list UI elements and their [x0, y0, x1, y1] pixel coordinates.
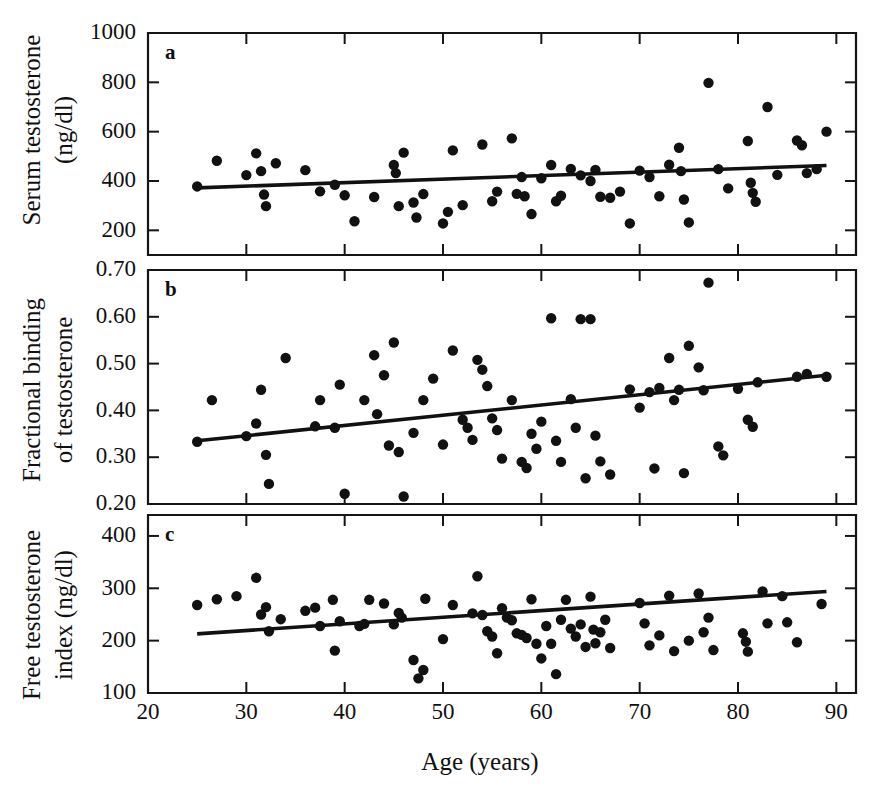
y-tick-label-c-0: 100: [102, 679, 137, 704]
data-point: [231, 591, 241, 601]
data-point: [625, 384, 635, 394]
data-point: [315, 186, 325, 196]
data-point: [192, 600, 202, 610]
data-point: [335, 616, 345, 626]
data-point: [713, 441, 723, 451]
data-point: [492, 648, 502, 658]
data-point: [497, 453, 507, 463]
x-tick-label-1: 30: [235, 699, 258, 724]
data-point: [477, 139, 487, 149]
data-point: [698, 385, 708, 395]
data-point: [391, 168, 401, 178]
data-point: [743, 646, 753, 656]
data-point: [797, 140, 807, 150]
data-point: [492, 186, 502, 196]
panel-letter-c: c: [165, 522, 174, 546]
data-point: [536, 173, 546, 183]
data-point: [792, 372, 802, 382]
data-point: [264, 479, 274, 489]
data-point: [600, 615, 610, 625]
data-point: [566, 394, 576, 404]
data-point: [519, 191, 529, 201]
data-point: [748, 422, 758, 432]
data-point: [679, 468, 689, 478]
data-point: [551, 669, 561, 679]
data-point: [654, 191, 664, 201]
data-point: [359, 395, 369, 405]
data-point: [777, 591, 787, 601]
data-point: [676, 166, 686, 176]
data-point: [264, 626, 274, 636]
data-point: [644, 387, 654, 397]
data-point: [192, 181, 202, 191]
data-point: [443, 207, 453, 217]
data-point: [328, 595, 338, 605]
data-point: [634, 598, 644, 608]
x-tick-label-2: 40: [333, 699, 356, 724]
data-point: [364, 595, 374, 605]
data-point: [536, 653, 546, 663]
data-point: [757, 586, 767, 596]
data-point: [684, 341, 694, 351]
data-point: [639, 618, 649, 628]
y-axis-title-b-line1: Fractional binding: [18, 298, 45, 482]
data-point: [438, 439, 448, 449]
y-tick-label-b-5: 0.70: [96, 256, 136, 281]
data-point: [703, 277, 713, 287]
data-point: [394, 447, 404, 457]
data-point: [315, 395, 325, 405]
data-point: [438, 218, 448, 228]
data-point: [693, 362, 703, 372]
data-point: [472, 571, 482, 581]
data-point: [339, 489, 349, 499]
data-point: [207, 395, 217, 405]
data-point: [280, 353, 290, 363]
data-point: [571, 631, 581, 641]
data-point: [477, 364, 487, 374]
data-point: [359, 619, 369, 629]
data-point: [467, 608, 477, 618]
data-point: [708, 645, 718, 655]
data-point: [438, 634, 448, 644]
data-point: [487, 631, 497, 641]
data-point: [723, 183, 733, 193]
data-point: [713, 164, 723, 174]
data-point: [664, 160, 674, 170]
data-point: [335, 379, 345, 389]
data-point: [369, 350, 379, 360]
data-point: [762, 618, 772, 628]
data-point: [408, 197, 418, 207]
figure-container: 2004006008001000a0.200.300.400.500.600.7…: [0, 0, 871, 796]
data-point: [546, 639, 556, 649]
data-point: [782, 617, 792, 627]
data-point: [585, 591, 595, 601]
data-point: [644, 640, 654, 650]
data-point: [733, 384, 743, 394]
data-point: [379, 370, 389, 380]
data-point: [669, 395, 679, 405]
regression-line-c: [197, 591, 826, 633]
data-point: [261, 450, 271, 460]
x-tick-label-5: 70: [628, 699, 651, 724]
data-point: [585, 176, 595, 186]
data-point: [762, 102, 772, 112]
data-point: [369, 192, 379, 202]
data-point: [821, 126, 831, 136]
data-point: [684, 635, 694, 645]
data-point: [462, 423, 472, 433]
data-point: [389, 619, 399, 629]
data-point: [625, 218, 635, 228]
data-point: [821, 372, 831, 382]
data-point: [654, 630, 664, 640]
data-point: [684, 217, 694, 227]
data-point: [816, 599, 826, 609]
data-point: [634, 165, 644, 175]
data-point: [605, 643, 615, 653]
data-point: [751, 197, 761, 207]
panel-b: 0.200.300.400.500.600.70b: [96, 256, 856, 515]
y-axis-title-a-line1: Serum testosterone: [18, 35, 45, 226]
data-point: [566, 164, 576, 174]
x-tick-label-7: 90: [825, 699, 848, 724]
data-point: [497, 603, 507, 613]
panel-letter-b: b: [165, 277, 177, 301]
